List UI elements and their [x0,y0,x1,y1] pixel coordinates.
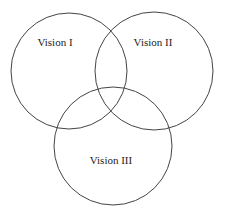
circle-vision-2 [95,12,213,130]
label-vision-1: Vision I [37,36,72,48]
label-vision-3: Vision III [90,154,133,166]
circle-vision-3 [54,87,172,205]
venn-diagram: Vision I Vision II Vision III [0,0,226,216]
label-vision-2: Vision II [134,36,173,48]
circle-vision-1 [11,13,127,129]
